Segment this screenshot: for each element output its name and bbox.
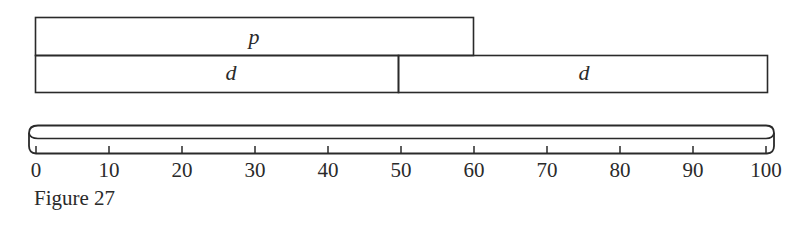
scale-tick-label: 60 xyxy=(464,158,485,182)
scale-tick-label: 0 xyxy=(31,158,42,182)
scale-tick-label: 30 xyxy=(245,158,266,182)
scale-tick-label: 10 xyxy=(99,158,120,182)
bar-d-second-label: d xyxy=(579,60,591,85)
scale-tick-label: 20 xyxy=(172,158,193,182)
scale-tick-label: 80 xyxy=(610,158,631,182)
bar-d-first-label: d xyxy=(226,60,238,85)
bar-d-second: d xyxy=(399,56,768,93)
scale-ticks: 0102030405060708090100 xyxy=(31,146,782,182)
scale-tick-label: 100 xyxy=(750,158,782,182)
scale-tick-label: 70 xyxy=(537,158,558,182)
scale-tick-label: 40 xyxy=(318,158,339,182)
figure-caption: Figure 27 xyxy=(34,186,115,211)
bar-p: p xyxy=(36,18,474,56)
bar-d-first: d xyxy=(36,56,399,93)
bar-p-label: p xyxy=(247,24,260,49)
figure-diagram: p d d 0102030405060708090100 xyxy=(0,0,808,228)
scale-tick-label: 50 xyxy=(391,158,412,182)
scale-tick-label: 90 xyxy=(683,158,704,182)
scale-ruler: 0102030405060708090100 xyxy=(29,126,782,183)
